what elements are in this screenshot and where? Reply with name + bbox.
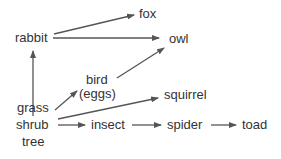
node-spider: spider: [167, 117, 202, 132]
node-owl: owl: [169, 31, 189, 46]
node-insect: insect: [91, 117, 125, 132]
arrow-plants-to-bird: [55, 91, 77, 110]
node-tree: tree: [22, 134, 44, 149]
arrow-plants-to-squirrel: [58, 98, 158, 119]
node-grass: grass: [17, 100, 49, 115]
node-fox: fox: [139, 6, 156, 21]
node-bird-eggs: (eggs): [79, 86, 116, 101]
food-web-diagram: rabbit fox owl bird (eggs) squirrel gras…: [0, 0, 281, 159]
arrow-bird-to-owl: [117, 48, 164, 78]
node-bird: bird: [86, 72, 108, 87]
node-squirrel: squirrel: [164, 87, 207, 102]
node-toad: toad: [242, 117, 267, 132]
node-rabbit: rabbit: [15, 30, 48, 45]
node-shrub: shrub: [16, 117, 49, 132]
arrow-rabbit-to-fox: [54, 15, 134, 34]
